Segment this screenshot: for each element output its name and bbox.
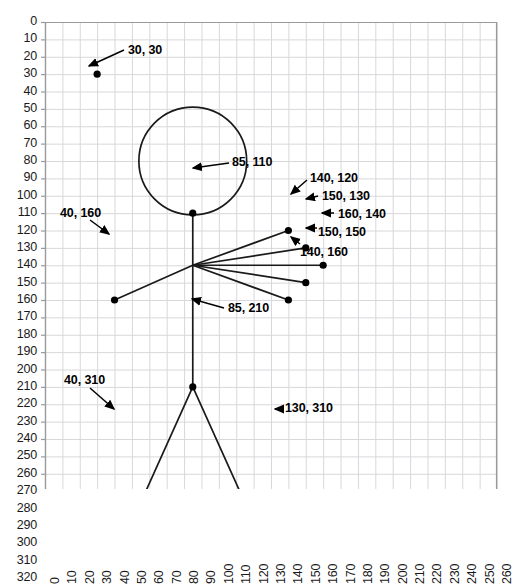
y-tick-label: 210 [3, 381, 37, 392]
annotation-label: 30, 30 [128, 44, 162, 57]
y-tick-label: 220 [3, 398, 37, 409]
y-tick-label: 80 [3, 155, 37, 166]
y-tick-label: 110 [3, 207, 37, 218]
y-tick-label: 90 [3, 172, 37, 183]
y-tick-label: 240 [3, 433, 37, 444]
y-tick-label: 190 [3, 346, 37, 357]
y-tick-label: 270 [3, 485, 37, 496]
x-tick-label: 190 [380, 564, 391, 584]
y-tick-label: 310 [3, 555, 37, 566]
x-tick-label: 70 [172, 570, 183, 584]
x-tick-label: 100 [224, 564, 235, 584]
data-point [285, 227, 292, 234]
data-point [285, 296, 292, 303]
x-tick-label: 250 [485, 564, 496, 584]
data-point [302, 279, 309, 286]
x-tick-label: 20 [85, 570, 96, 584]
x-tick-label: 80 [189, 570, 200, 584]
y-tick-label: 200 [3, 364, 37, 375]
y-tick-label: 20 [3, 51, 37, 62]
data-point [111, 296, 118, 303]
annotation-arrow [291, 180, 307, 194]
annotation-arrow [89, 50, 124, 66]
y-tick-label: 180 [3, 329, 37, 340]
x-tick-label: 150 [311, 564, 322, 584]
x-tick-label: 10 [67, 570, 78, 584]
x-tick-label: 180 [363, 564, 374, 584]
y-tick-label: 60 [3, 120, 37, 131]
y-tick-label: 250 [3, 450, 37, 461]
y-tick-label: 150 [3, 277, 37, 288]
x-tick-label: 60 [154, 570, 165, 584]
y-tick-label: 40 [3, 86, 37, 97]
x-tick-label: 50 [137, 570, 148, 584]
annotation-label: 140, 120 [310, 172, 358, 185]
y-tick-label: 70 [3, 138, 37, 149]
data-point [189, 210, 196, 217]
y-tick-label: 170 [3, 311, 37, 322]
y-tick-label: 260 [3, 468, 37, 479]
annotation-label: 160, 140 [338, 208, 386, 221]
y-tick-label: 300 [3, 537, 37, 548]
y-tick-label: 100 [3, 190, 37, 201]
y-tick-label: 230 [3, 416, 37, 427]
annotation-arrow [193, 163, 229, 168]
x-tick-label: 130 [276, 564, 287, 584]
shape-leg-left [115, 387, 193, 489]
x-tick-label: 200 [398, 564, 409, 584]
annotation-label: 150, 130 [322, 190, 370, 203]
x-tick-label: 240 [467, 564, 478, 584]
y-tick-label: 0 [3, 16, 37, 27]
x-tick-label: 110 [241, 565, 252, 584]
y-tick-label: 10 [3, 33, 37, 44]
annotation-arrow [90, 220, 109, 234]
annotation-label: 140, 160 [300, 246, 348, 259]
y-tick-label: 130 [3, 242, 37, 253]
x-tick-label: 170 [346, 564, 357, 584]
x-tick-label: 230 [450, 564, 461, 584]
data-point [94, 71, 101, 78]
annotation-label: 85, 110 [232, 156, 272, 169]
y-tick-label: 50 [3, 103, 37, 114]
annotation-arrow [90, 388, 114, 409]
y-tick-label: 280 [3, 503, 37, 514]
y-tick-label: 320 [3, 572, 37, 583]
x-tick-label: 220 [432, 564, 443, 584]
x-tick-label: 160 [328, 564, 339, 584]
y-tick-label: 160 [3, 294, 37, 305]
x-tick-label: 0 [50, 577, 61, 584]
annotation-label: 150, 150 [318, 226, 366, 239]
x-tick-label: 120 [259, 564, 270, 584]
annotation-label: 40, 160 [60, 207, 101, 220]
data-point [189, 383, 196, 390]
data-point [320, 262, 327, 269]
annotation-arrow [291, 237, 300, 244]
x-tick-label: 90 [206, 570, 217, 584]
x-tick-label: 260 [502, 564, 513, 584]
shape-leg-right [193, 387, 271, 489]
x-tick-label: 140 [293, 564, 304, 584]
y-tick-label: 140 [3, 259, 37, 270]
y-tick-label: 30 [3, 68, 37, 79]
x-tick-label: 30 [102, 570, 113, 584]
annotation-label: 40, 310 [64, 374, 105, 387]
x-tick-label: 210 [415, 564, 426, 584]
y-tick-label: 290 [3, 520, 37, 531]
annotation-label: 130, 310 [285, 402, 333, 415]
y-tick-label: 120 [3, 225, 37, 236]
annotation-label: 85, 210 [228, 302, 269, 315]
gridlines [45, 22, 498, 489]
x-tick-label: 40 [120, 570, 131, 584]
